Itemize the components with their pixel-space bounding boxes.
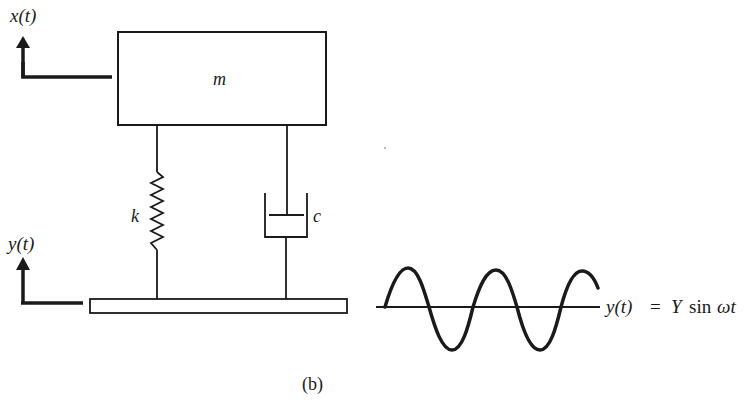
figure-caption: (b) bbox=[302, 374, 323, 395]
mass-displacement-arrow bbox=[16, 36, 112, 78]
scan-speck bbox=[384, 147, 386, 149]
mass-label: m bbox=[213, 69, 226, 89]
sine-wave bbox=[385, 268, 598, 350]
equation-amplitude: Y bbox=[671, 296, 684, 317]
equation-sin: sin bbox=[689, 296, 712, 317]
sine-excitation-plot bbox=[376, 268, 600, 350]
spring bbox=[151, 125, 163, 299]
equation-equals: = bbox=[650, 296, 661, 317]
equation-lhs: y(t) bbox=[604, 296, 632, 318]
equation-argument: ωt bbox=[717, 296, 736, 317]
base-displacement-label: y(t) bbox=[6, 233, 34, 255]
base-displacement-arrow bbox=[16, 257, 83, 304]
damper-label: c bbox=[313, 206, 321, 226]
damper bbox=[265, 125, 307, 299]
base-plate bbox=[90, 299, 347, 313]
spring-label: k bbox=[131, 206, 140, 226]
mass-displacement-label: x(t) bbox=[9, 5, 36, 27]
vibration-diagram: x(t) m k c y(t) y(t) = Y sin ωt (b) bbox=[0, 0, 752, 405]
excitation-equation: y(t) = Y sin ωt bbox=[604, 296, 736, 318]
